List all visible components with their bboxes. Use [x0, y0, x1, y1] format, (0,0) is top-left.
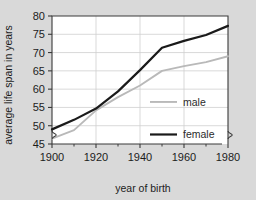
y-tick-label: 80 — [33, 10, 45, 22]
y-tick-label: 55 — [33, 101, 45, 113]
y-tick-label: 65 — [33, 65, 45, 77]
y-tick-label: 45 — [33, 138, 45, 150]
legend-label-female: female — [183, 128, 215, 140]
y-tick-label: 70 — [33, 47, 45, 59]
x-axis-title: year of birth — [115, 182, 171, 194]
y-tick-label: 50 — [33, 120, 45, 132]
legend-label-male: male — [183, 96, 206, 108]
x-tick-label: 1920 — [84, 151, 108, 163]
x-tick-label: 1960 — [172, 151, 196, 163]
y-tick-label: 75 — [33, 28, 45, 40]
x-tick-label: 1980 — [216, 151, 240, 163]
chart-canvas: 19001920194019601980 4550556065707580 ma… — [0, 0, 256, 200]
x-tick-label: 1900 — [40, 151, 64, 163]
x-tick-label: 1940 — [128, 151, 152, 163]
y-axis-title: average life span in years — [2, 25, 14, 145]
y-tick-label: 60 — [33, 83, 45, 95]
life-span-line-chart: 19001920194019601980 4550556065707580 ma… — [0, 0, 256, 200]
